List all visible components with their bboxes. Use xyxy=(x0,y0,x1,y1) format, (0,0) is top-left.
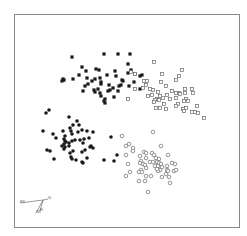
data-point xyxy=(77,123,81,127)
data-point xyxy=(113,69,116,72)
data-point xyxy=(129,70,132,73)
data-point xyxy=(133,72,136,75)
data-point xyxy=(133,87,136,90)
data-point xyxy=(152,60,155,63)
data-point xyxy=(67,144,71,148)
data-point xyxy=(174,168,178,172)
data-point xyxy=(47,108,51,112)
data-point xyxy=(99,94,102,97)
data-point xyxy=(44,111,48,115)
data-point xyxy=(166,153,170,157)
data-point xyxy=(99,82,102,85)
data-point xyxy=(60,79,63,82)
data-point xyxy=(76,130,80,134)
data-point xyxy=(202,116,205,119)
series-cluster-2 xyxy=(126,60,205,119)
data-point xyxy=(124,144,128,148)
data-point xyxy=(68,151,72,155)
data-point xyxy=(173,162,177,166)
data-point xyxy=(124,153,128,157)
data-point xyxy=(102,158,106,162)
data-point xyxy=(41,129,45,133)
data-point xyxy=(86,82,89,85)
data-point xyxy=(152,100,155,103)
data-point xyxy=(111,86,114,89)
data-point xyxy=(77,73,80,76)
data-point xyxy=(138,154,142,158)
data-point xyxy=(160,175,164,179)
data-point xyxy=(78,138,82,142)
data-point xyxy=(174,104,177,107)
data-point xyxy=(154,106,157,109)
data-point xyxy=(155,167,159,171)
data-point xyxy=(74,158,78,162)
data-point xyxy=(92,88,95,91)
scatter-plot: PWSLSWPL xyxy=(0,0,247,236)
data-point xyxy=(196,111,199,114)
data-point xyxy=(132,80,135,83)
data-point xyxy=(180,68,183,71)
data-point xyxy=(144,151,148,155)
data-point xyxy=(91,130,95,134)
data-point xyxy=(151,160,155,164)
data-point xyxy=(96,87,99,90)
data-point xyxy=(157,157,161,161)
data-point xyxy=(52,157,56,161)
data-points xyxy=(41,52,205,193)
data-point xyxy=(126,62,129,65)
data-point xyxy=(128,52,131,55)
data-point xyxy=(182,109,185,112)
data-point xyxy=(98,76,101,79)
data-point xyxy=(114,74,117,77)
data-point xyxy=(183,91,186,94)
data-point xyxy=(126,97,129,100)
data-point xyxy=(81,89,84,92)
data-point xyxy=(70,55,73,58)
data-point xyxy=(121,79,124,82)
data-point xyxy=(157,98,160,101)
data-point xyxy=(190,87,193,90)
data-point xyxy=(80,150,84,154)
data-point xyxy=(61,129,65,133)
data-point xyxy=(168,97,171,100)
data-point xyxy=(137,179,141,183)
data-point xyxy=(174,96,177,99)
data-point xyxy=(116,89,119,92)
data-point xyxy=(84,69,87,72)
data-point xyxy=(82,137,86,141)
data-point xyxy=(162,102,165,105)
data-point xyxy=(48,149,52,153)
data-point xyxy=(178,92,181,95)
data-point xyxy=(158,94,161,97)
data-point xyxy=(109,135,113,139)
data-point xyxy=(174,78,177,81)
data-point xyxy=(158,106,161,109)
data-point xyxy=(191,91,194,94)
data-point xyxy=(127,84,130,87)
data-point xyxy=(51,132,55,136)
data-point xyxy=(143,179,147,183)
data-point xyxy=(120,134,124,138)
data-point xyxy=(83,84,86,87)
data-point xyxy=(54,136,58,140)
data-point xyxy=(167,175,171,179)
data-point xyxy=(75,119,79,123)
data-point xyxy=(148,87,151,90)
axis-glyph-label: SL xyxy=(48,196,52,200)
data-point xyxy=(144,156,148,160)
data-point xyxy=(183,87,186,90)
data-point xyxy=(164,84,167,87)
data-point xyxy=(144,174,148,178)
data-point xyxy=(146,94,149,97)
data-point xyxy=(67,115,71,119)
data-point xyxy=(177,74,180,77)
data-point xyxy=(70,132,74,136)
data-point xyxy=(87,136,91,140)
data-point xyxy=(70,157,74,161)
data-point xyxy=(81,141,85,145)
data-point xyxy=(149,174,153,178)
data-point xyxy=(156,90,159,93)
data-point xyxy=(91,146,95,150)
data-point xyxy=(128,170,132,174)
data-point xyxy=(165,93,168,96)
